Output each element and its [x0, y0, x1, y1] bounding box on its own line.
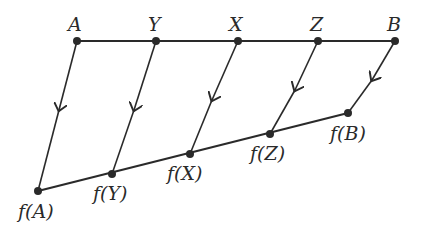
label-z: Z [309, 13, 324, 35]
point-f-b [344, 109, 352, 117]
mapping-arrow-b [348, 41, 395, 113]
label-f-y: f(Y) [91, 182, 127, 204]
label-y: Y [148, 13, 163, 35]
mapping-arrow-x [190, 41, 238, 154]
point-z [314, 37, 322, 45]
point-f-z [266, 130, 274, 138]
point-f-y [108, 170, 116, 178]
point-f-x [186, 150, 194, 158]
mapping-arrow-y [112, 41, 156, 174]
label-x: X [227, 13, 244, 35]
label-a: A [66, 13, 82, 35]
point-b [391, 37, 399, 45]
label-f-z: f(Z) [248, 142, 285, 164]
point-f-a [34, 187, 42, 195]
point-a [73, 37, 81, 45]
mapping-arrow-a [38, 41, 77, 191]
mapping-arrow-z [270, 41, 318, 134]
point-x [234, 37, 242, 45]
label-b: B [386, 13, 401, 35]
point-y [152, 37, 160, 45]
mapping-diagram: A Y X Z B f(A) f(Y) f(X) f(Z) f(B) [0, 0, 424, 237]
label-f-b: f(B) [328, 122, 366, 144]
label-f-x: f(X) [165, 162, 202, 184]
label-f-a: f(A) [16, 200, 54, 222]
